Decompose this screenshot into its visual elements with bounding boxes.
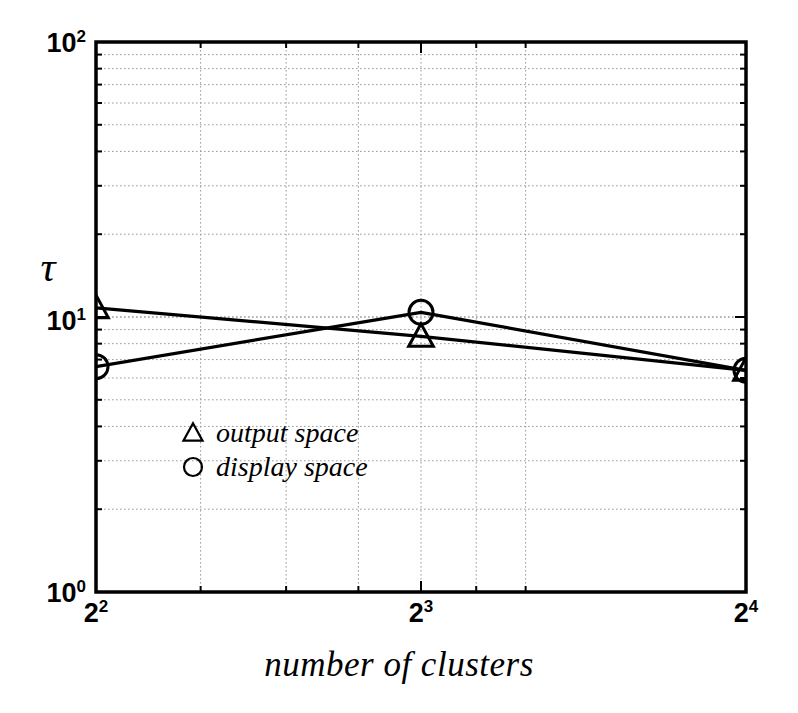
x-axis-title: number of clusters [0, 645, 798, 685]
y-tick-label-100: 102 [14, 28, 86, 59]
legend-label-display-space: display space [216, 451, 368, 483]
chart-figure: 102 101 100 22 23 24 number of clusters … [0, 0, 798, 713]
y-axis-title: τ [18, 243, 78, 291]
x-tick-label-4: 22 [66, 598, 126, 629]
x-tick-label-16: 24 [716, 598, 776, 629]
x-tick-label-8: 23 [391, 598, 451, 629]
legend-label-output-space: output space [216, 417, 358, 449]
y-tick-label-10: 101 [14, 306, 86, 337]
